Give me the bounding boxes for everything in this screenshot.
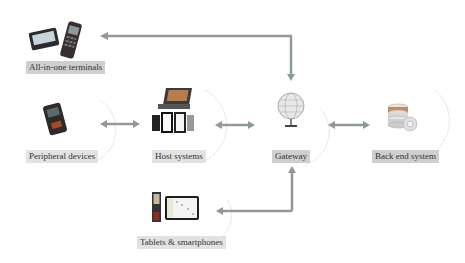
circle-arc-peripheral <box>98 100 116 160</box>
diagram-canvas: All-in-one terminals Peripheral devices … <box>0 0 465 263</box>
label-all-in-one-terminals: All-in-one terminals <box>26 61 105 74</box>
arrow-gateway-allinone <box>100 32 295 81</box>
arrow-peripheral-host <box>100 120 140 128</box>
circle-arc-backend <box>430 90 449 155</box>
label-gateway: Gateway <box>272 150 310 163</box>
pos-terminal-icon <box>28 21 82 59</box>
arrow-gateway-backend <box>328 121 370 129</box>
globe-icon <box>278 93 304 127</box>
database-server-icon <box>388 104 417 131</box>
label-back-end-system: Back end system <box>372 150 439 163</box>
mobile-devices-icon <box>152 192 199 222</box>
arrow-host-gateway <box>215 121 255 129</box>
label-peripheral-devices: Peripheral devices <box>26 150 98 163</box>
connectors <box>0 0 465 263</box>
card-reader-icon <box>42 102 67 136</box>
laptop-tablets-icon <box>152 88 194 133</box>
circle-arc-tablets <box>218 200 232 240</box>
label-host-systems: Host systems <box>152 150 206 163</box>
label-tablets-smartphones: Tablets & smartphones <box>137 236 226 249</box>
arrow-gateway-tablets <box>216 166 296 215</box>
